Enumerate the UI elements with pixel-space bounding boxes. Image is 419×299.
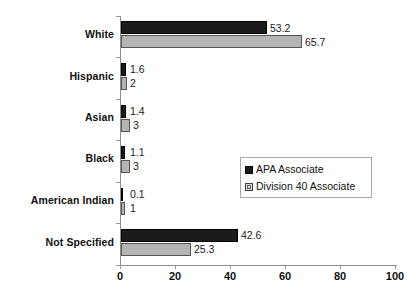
bar-div40-hispanic <box>121 77 127 90</box>
bar-apa-hispanic <box>121 63 126 76</box>
x-axis-tick-label-80: 80 <box>334 270 346 282</box>
y-axis-label-asian: Asian <box>0 111 114 123</box>
legend-label-division-40: Division 40 Associate <box>256 181 355 192</box>
bar-div40-white <box>121 35 302 48</box>
chart-legend: APA Associate Division 40 Associate <box>240 157 372 198</box>
y-axis-label-not-specified: Not Specified <box>0 236 114 248</box>
y-axis-tick <box>116 99 120 100</box>
y-axis-label-black: Black <box>0 152 114 164</box>
bar-div40-asian <box>121 119 130 132</box>
y-axis-line <box>120 16 121 265</box>
bar-value-apa-american-indian: 0.1 <box>130 188 145 200</box>
bar-apa-asian <box>121 105 126 118</box>
y-axis-tick <box>116 57 120 58</box>
bar-apa-black <box>121 146 125 159</box>
x-axis-tick <box>285 265 286 269</box>
bar-div40-american-indian <box>121 202 125 215</box>
x-axis-tick-label-0: 0 <box>117 270 123 282</box>
y-axis-tick <box>116 182 120 183</box>
bar-value-apa-white: 53.2 <box>270 22 290 34</box>
bar-div40-not-specified <box>121 243 191 256</box>
bar-div40-black <box>121 160 130 173</box>
x-axis-tick-labels: 0 20 40 60 80 100 <box>120 270 410 286</box>
x-axis-tick <box>395 265 396 269</box>
bar-apa-american-indian <box>121 188 123 201</box>
legend-swatch-icon-apa <box>245 166 253 174</box>
x-axis-tick <box>340 265 341 269</box>
x-axis-tick <box>230 265 231 269</box>
x-axis-tick <box>120 265 121 269</box>
plot-area: 53.2 65.7 1.6 2 1.4 3 1.1 3 0.1 1 42.6 2… <box>120 16 396 265</box>
bar-value-div40-not-specified: 25.3 <box>194 243 214 255</box>
legend-swatch-icon-division-40 <box>245 183 253 191</box>
x-axis-tick-label-60: 60 <box>279 270 291 282</box>
x-axis-tick <box>175 265 176 269</box>
bar-chart: White Hispanic Asian Black American Indi… <box>0 0 419 299</box>
bar-apa-white <box>121 21 267 34</box>
bar-value-apa-asian: 1.4 <box>130 105 145 117</box>
bar-value-div40-hispanic: 2 <box>130 77 136 89</box>
x-axis-tick-label-100: 100 <box>386 270 404 282</box>
bar-value-apa-not-specified: 42.6 <box>241 229 261 241</box>
bar-value-div40-white: 65.7 <box>305 36 325 48</box>
bar-apa-not-specified <box>121 229 238 242</box>
bar-value-div40-asian: 3 <box>133 119 139 131</box>
legend-item-apa-associate: APA Associate <box>245 163 324 176</box>
x-axis-tick-label-40: 40 <box>224 270 236 282</box>
x-axis-tick-label-20: 20 <box>169 270 181 282</box>
bar-value-div40-black: 3 <box>133 160 139 172</box>
bar-value-apa-hispanic: 1.6 <box>130 63 145 75</box>
y-axis-label-white: White <box>0 28 114 40</box>
y-axis-tick <box>116 140 120 141</box>
legend-item-division-40-associate: Division 40 Associate <box>245 180 355 193</box>
bar-value-apa-black: 1.1 <box>130 146 145 158</box>
x-axis-line <box>120 265 397 266</box>
y-axis-tick <box>116 223 120 224</box>
y-axis-label-american-indian: American Indian <box>0 194 114 206</box>
y-axis-label-hispanic: Hispanic <box>0 70 114 82</box>
bar-value-div40-american-indian: 1 <box>130 202 136 214</box>
y-axis-tick <box>116 16 120 17</box>
legend-label-apa: APA Associate <box>256 164 324 175</box>
y-axis-category-labels: White Hispanic Asian Black American Indi… <box>0 0 114 299</box>
